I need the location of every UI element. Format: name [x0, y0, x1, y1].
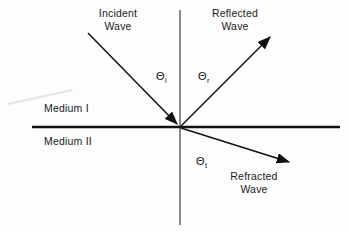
medium-one-label: Medium I [44, 102, 89, 115]
refracted-wave-label-line1: Refracted [230, 170, 277, 182]
refracted-wave-label: Refracted Wave [216, 170, 292, 196]
theta-reflected-subscript: r [207, 76, 210, 85]
incident-wave-label-line2: Wave [84, 20, 152, 33]
theta-reflected-symbol: Θ [198, 70, 207, 82]
optics-diagram: Incident Wave Reflected Wave Refracted W… [0, 0, 349, 232]
theta-reflected-label: Θr [198, 70, 209, 82]
medium-two-label: Medium II [44, 135, 92, 148]
incident-wave-label-line1: Incident [99, 7, 137, 19]
diagram-canvas [0, 0, 349, 232]
reflected-ray [181, 37, 270, 126]
theta-incident-label: Θi [156, 70, 166, 82]
incident-wave-label: Incident Wave [84, 7, 152, 33]
theta-transmitted-subscript: t [205, 161, 207, 170]
reflected-wave-label-line1: Reflected [212, 7, 258, 19]
theta-incident-subscript: i [165, 76, 167, 85]
theta-incident-symbol: Θ [156, 70, 165, 82]
theta-transmitted-label: Θt [196, 155, 207, 167]
refracted-wave-label-line2: Wave [216, 183, 292, 196]
reflected-wave-label-line2: Wave [198, 20, 272, 33]
reflected-wave-label: Reflected Wave [198, 7, 272, 33]
theta-transmitted-symbol: Θ [196, 155, 205, 167]
